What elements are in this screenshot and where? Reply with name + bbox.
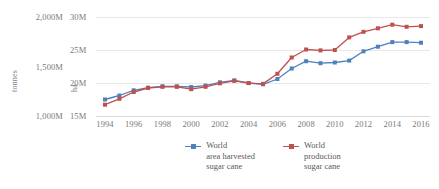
series-marker [304, 48, 308, 52]
left-axis-tick-label: 2,000M [36, 12, 63, 22]
series-marker [419, 41, 423, 45]
legend-item-production[interactable]: World production sugar cane [283, 140, 341, 186]
series-marker [419, 24, 423, 28]
x-axis-tick-label: 1994 [96, 119, 113, 129]
series-marker [189, 87, 193, 91]
gridline [96, 116, 430, 117]
x-axis-tick-label: 1996 [125, 119, 142, 129]
series-marker [347, 59, 351, 63]
series-marker [261, 82, 265, 86]
series-lines [96, 17, 430, 116]
series-marker [319, 48, 323, 52]
x-axis-ticks: 1994199619982000200220042006200820102012… [96, 119, 430, 133]
series-marker [132, 90, 136, 94]
series-marker [319, 61, 323, 65]
series-marker [333, 61, 337, 65]
plot-area [96, 17, 430, 116]
legend-label-production: World production sugar cane [304, 140, 341, 172]
series-marker [347, 35, 351, 39]
series-marker [333, 48, 337, 52]
x-axis-tick-label: 2010 [326, 119, 343, 129]
series-marker [161, 85, 165, 89]
series-marker [376, 26, 380, 30]
legend-marker-red [283, 142, 299, 151]
legend-label-area-harvested: World area harvested sugar cane [206, 140, 255, 172]
legend-item-area-harvested[interactable]: World area harvested sugar cane [185, 140, 255, 186]
series-marker [117, 97, 121, 101]
x-axis-tick-label: 1998 [154, 119, 171, 129]
left-axis-tick-label: 1,500M [36, 62, 63, 72]
series-marker [304, 59, 308, 63]
legend-marker-blue [185, 142, 201, 151]
series-marker [290, 56, 294, 60]
series-marker [275, 72, 279, 76]
x-axis-tick-label: 2006 [269, 119, 286, 129]
series-marker [362, 49, 366, 53]
series-marker [204, 85, 208, 89]
x-axis-tick-label: 2012 [355, 119, 372, 129]
x-axis-tick-label: 2000 [182, 119, 199, 129]
series-marker [232, 79, 236, 83]
inner-axis-tick-label: 20M [70, 78, 86, 88]
series-marker [405, 40, 409, 44]
series-marker [146, 86, 150, 90]
inner-axis-tick-label: 25M [70, 45, 86, 55]
series-line [105, 42, 421, 99]
series-marker [103, 103, 107, 107]
chart-legend: World area harvested sugar cane World pr… [96, 140, 430, 186]
x-axis-tick-label: 2008 [297, 119, 314, 129]
x-axis-tick-label: 2004 [240, 119, 257, 129]
left-axis-tick-label: 1,000M [36, 111, 63, 121]
left-axis-title: tonnes [10, 70, 19, 92]
series-line [105, 25, 421, 105]
series-marker [290, 67, 294, 71]
x-axis-tick-label: 2014 [384, 119, 401, 129]
series-marker [405, 25, 409, 29]
x-axis-tick-label: 2016 [412, 119, 429, 129]
series-marker [362, 30, 366, 34]
series-marker [390, 40, 394, 44]
x-axis-tick-label: 2002 [211, 119, 228, 129]
inner-axis-tick-label: 15M [70, 111, 86, 121]
series-marker [247, 81, 251, 85]
series-marker [275, 77, 279, 81]
series-marker [390, 23, 394, 27]
series-marker [103, 98, 107, 102]
series-marker [218, 81, 222, 85]
series-marker [376, 45, 380, 49]
inner-axis-tick-label: 30M [70, 12, 86, 22]
chart-container: tonnes ha 2,000M1,500M1,000M 30M25M20M15… [0, 0, 439, 189]
series-marker [175, 85, 179, 89]
